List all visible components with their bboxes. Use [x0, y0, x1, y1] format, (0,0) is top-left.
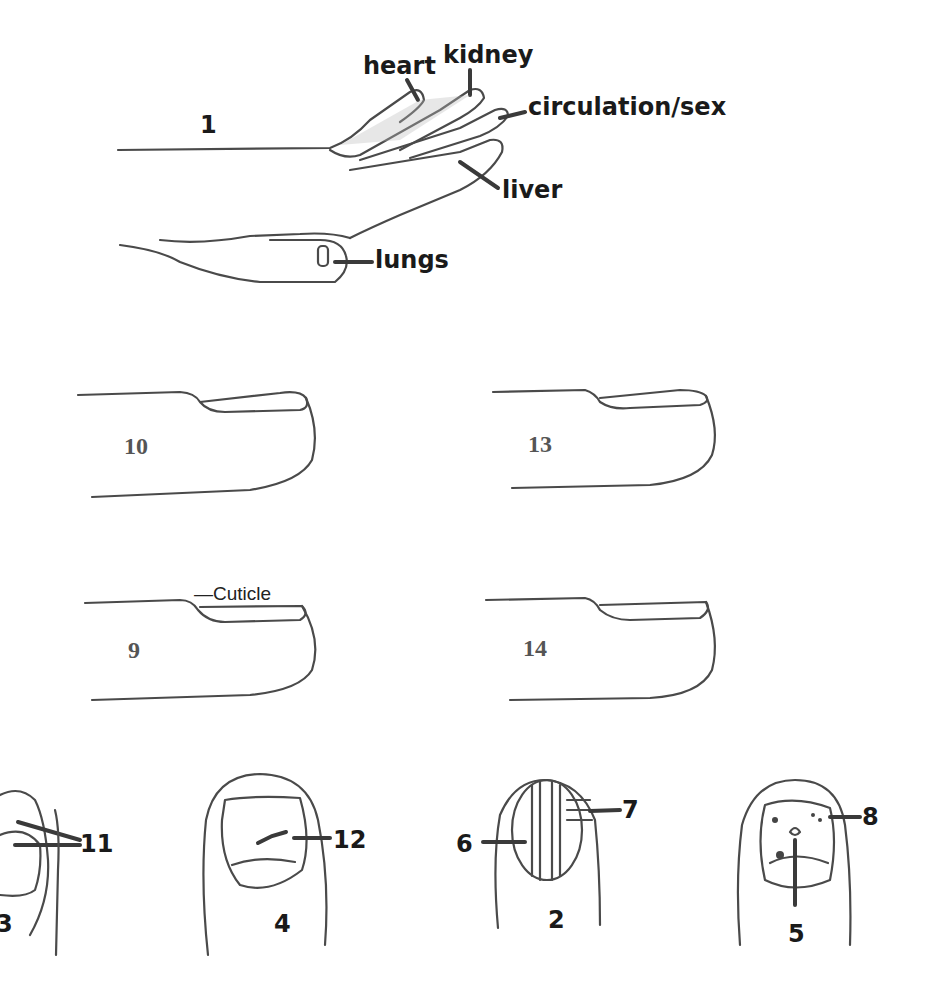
side-finger-9: [85, 600, 315, 700]
nail-number-2: 2: [548, 908, 565, 932]
marker-7: 7: [622, 798, 639, 822]
label-circulation-sex: circulation/sex: [528, 95, 726, 119]
label-cuticle: —Cuticle: [194, 584, 271, 603]
label-heart: heart: [363, 54, 436, 78]
figure-number-1: 1: [200, 113, 217, 137]
marker-6: 6: [456, 832, 473, 856]
nail-number-3: 3: [0, 912, 13, 936]
hand-drawing: [118, 70, 525, 282]
finger-number-10: 10: [124, 434, 148, 458]
finger-number-13: 13: [528, 432, 552, 456]
side-finger-10: [78, 392, 315, 497]
finger-number-9: 9: [128, 638, 140, 662]
side-finger-13: [493, 390, 715, 488]
marker-8: 8: [862, 805, 879, 829]
nail-number-5: 5: [788, 922, 805, 946]
marker-12: 12: [333, 828, 366, 852]
label-lungs: lungs: [375, 248, 449, 272]
side-finger-14: [486, 598, 715, 700]
nail-4: [203, 774, 330, 955]
label-liver: liver: [502, 178, 562, 202]
label-kidney: kidney: [443, 43, 533, 67]
marker-11: 11: [80, 832, 113, 856]
finger-number-14: 14: [523, 636, 547, 660]
nail-number-4: 4: [274, 912, 291, 936]
